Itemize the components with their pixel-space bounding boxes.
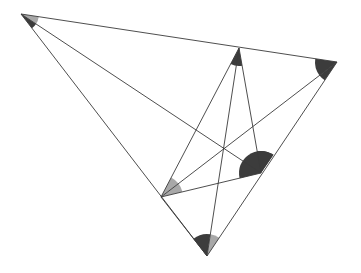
edge-cf [207,62,337,256]
edge-ac [21,14,337,62]
edges [21,14,337,256]
geometry-diagram [0,0,361,273]
edge-ad [21,14,261,173]
edge-ce [161,62,337,197]
edge-ef [161,197,207,256]
